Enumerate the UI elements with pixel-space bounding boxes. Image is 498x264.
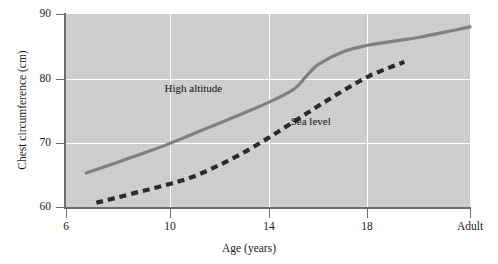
series-line-high-altitude: [86, 27, 470, 173]
series-layer: [0, 0, 498, 264]
series-label-sea-level: Sea level: [291, 116, 331, 127]
chart-figure: 90 80 70 60 6 10 14 18 Adult Chest circu…: [0, 0, 498, 264]
series-label-high-altitude: High altitude: [165, 83, 223, 94]
series-line-sea-level: [96, 62, 404, 203]
